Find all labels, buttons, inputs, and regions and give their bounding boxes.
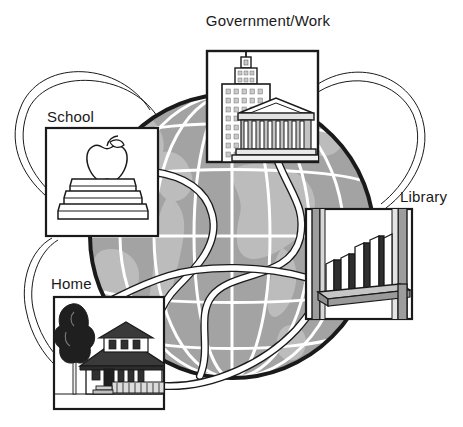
panel-government-work[interactable]: Government/Work — [206, 12, 331, 162]
panel-label-library: Library — [400, 188, 448, 205]
panel-label-school: School — [47, 108, 94, 125]
panel-label-home: Home — [51, 275, 92, 292]
diagram-canvas: Government/Work School — [0, 0, 463, 427]
panel-school[interactable]: School — [46, 108, 158, 236]
panel-library[interactable]: Library — [306, 188, 448, 324]
panel-label-government-work: Government/Work — [206, 12, 331, 29]
